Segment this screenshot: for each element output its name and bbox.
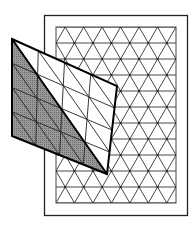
lattice-vertex	[110, 42, 112, 44]
lattice-vertex	[129, 170, 131, 172]
lattice-vertex	[166, 138, 168, 140]
lattice-vertex	[92, 42, 94, 44]
lattice-vertex	[92, 170, 94, 172]
lattice-vertex	[156, 186, 158, 188]
lattice-vertex	[147, 42, 149, 44]
lattice-vertex	[83, 186, 85, 188]
lattice-vertex	[138, 90, 140, 92]
lattice-vertex	[156, 122, 158, 124]
lattice-vertex	[110, 74, 112, 76]
lattice-vertex	[166, 106, 168, 108]
lattice-vertex	[166, 74, 168, 76]
lattice-vertex	[73, 42, 75, 44]
lattice-vertex	[156, 90, 158, 92]
lattice-vertex	[110, 170, 112, 172]
lattice-vertex	[166, 42, 168, 44]
lattice-vertex	[129, 106, 131, 108]
lattice-vertex	[138, 186, 140, 188]
lattice-vertex	[101, 186, 103, 188]
lattice-vertex	[120, 58, 122, 60]
lattice-vertex	[147, 106, 149, 108]
lattice-vertex	[120, 154, 122, 156]
lattice-vertex	[138, 154, 140, 156]
lattice-diagonal-line	[0, 27, 10, 203]
lattice-vertex	[156, 58, 158, 60]
lattice-vertex	[83, 58, 85, 60]
diagram-canvas	[0, 0, 192, 228]
lattice-vertex	[147, 170, 149, 172]
lattice-vertex	[120, 90, 122, 92]
lattice-vertex	[64, 58, 66, 60]
lattice-diagonal-line	[0, 27, 1, 203]
lattice-vertex	[156, 154, 158, 156]
lattice-vertex	[129, 74, 131, 76]
lattice-vertex	[147, 74, 149, 76]
lattice-diagram	[0, 0, 192, 228]
lattice-vertex	[138, 58, 140, 60]
lattice-vertex	[73, 170, 75, 172]
lattice-vertex	[64, 186, 66, 188]
lattice-vertex	[166, 170, 168, 172]
lattice-vertex	[138, 122, 140, 124]
lattice-vertex	[120, 122, 122, 124]
lattice-vertex	[147, 138, 149, 140]
lattice-vertex	[129, 138, 131, 140]
lattice-vertex	[101, 58, 103, 60]
lattice-vertex	[120, 186, 122, 188]
lattice-vertex	[129, 42, 131, 44]
